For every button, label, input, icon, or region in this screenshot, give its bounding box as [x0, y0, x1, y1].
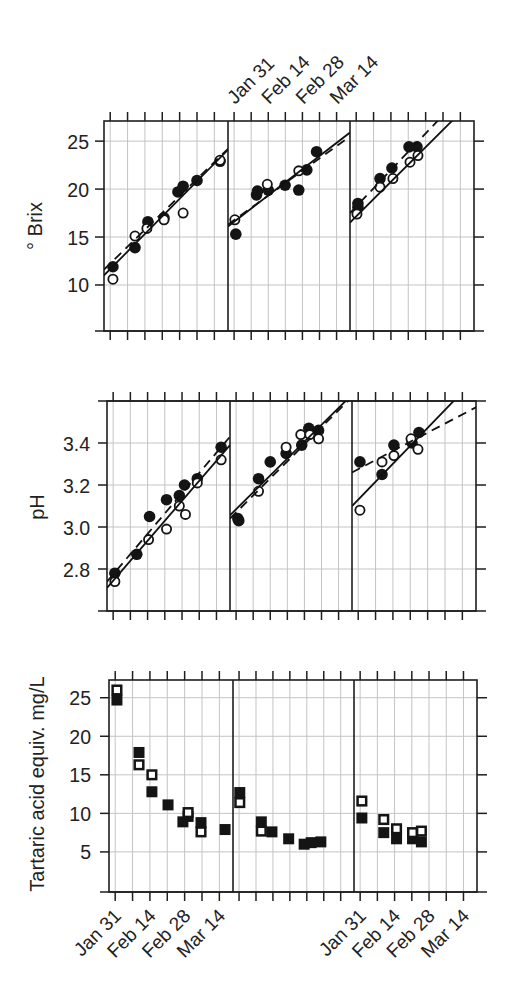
- data-point-open-square: [135, 761, 144, 770]
- figure: 10152025° BrixJan 31Feb 14Feb 28Mar 142.…: [0, 0, 519, 999]
- fit-line-solid: [352, 378, 476, 506]
- data-point-filled-circle: [252, 185, 264, 197]
- y-tick-label: 3.4: [63, 433, 90, 455]
- fit-line-dashed: [107, 437, 230, 582]
- chart-canvas: 10152025° BrixJan 31Feb 14Feb 28Mar 142.…: [0, 0, 519, 999]
- data-point-open-circle: [263, 180, 272, 189]
- tartaric-panel-2: [234, 787, 326, 850]
- data-point-open-circle: [314, 434, 323, 443]
- data-point-filled-square: [356, 812, 367, 823]
- data-point-open-square: [417, 827, 426, 836]
- y-tick-label: 2.8: [63, 559, 90, 581]
- fit-line-dashed: [230, 397, 352, 519]
- data-point-open-square: [235, 798, 244, 807]
- data-point-filled-circle: [230, 228, 242, 240]
- data-point-filled-circle: [293, 184, 305, 196]
- brix-plot-row: 10152025° BrixJan 31Feb 14Feb 28Mar 14: [24, 51, 484, 340]
- data-point-filled-square: [391, 833, 402, 844]
- tartaric-panel-3: [356, 797, 427, 848]
- data-point-open-circle: [413, 445, 422, 454]
- fit-line-solid: [104, 150, 228, 276]
- data-point-filled-square: [134, 747, 145, 758]
- ph-panel-2: [230, 395, 352, 527]
- y-tick-label: 25: [69, 687, 91, 709]
- data-point-filled-square: [315, 836, 326, 847]
- data-point-open-circle: [352, 209, 361, 218]
- y-tick-label: 3.2: [63, 475, 90, 497]
- brix-panel-2: [228, 133, 350, 240]
- data-point-open-square: [408, 828, 417, 837]
- y-axis-title: ° Brix: [24, 202, 46, 250]
- data-point-filled-square: [266, 826, 277, 837]
- data-point-filled-square: [111, 695, 122, 706]
- data-point-open-circle: [108, 275, 117, 284]
- data-point-open-circle: [179, 208, 188, 217]
- data-point-open-square: [358, 797, 367, 806]
- data-point-filled-circle: [264, 456, 276, 468]
- data-point-filled-circle: [233, 515, 245, 527]
- data-point-open-square: [257, 827, 266, 836]
- data-point-filled-circle: [161, 494, 173, 506]
- data-point-filled-square: [220, 824, 231, 835]
- y-axis-title: pH: [26, 494, 48, 520]
- fit-line-dashed: [104, 149, 228, 270]
- y-tick-label: 5: [80, 841, 91, 863]
- plot-frame: [109, 680, 477, 892]
- y-tick-label: 25: [67, 131, 89, 153]
- data-point-filled-square: [234, 787, 245, 798]
- data-point-open-circle: [159, 215, 168, 224]
- brix-panel-3: [350, 83, 474, 223]
- data-point-filled-square: [306, 837, 317, 848]
- y-tick-label: 3.0: [63, 517, 90, 539]
- y-axis-title: Tartaric acid equiv. mg/L: [26, 676, 48, 891]
- data-point-open-circle: [388, 174, 397, 183]
- data-point-filled-square: [146, 786, 157, 797]
- ph-panel-3: [352, 378, 476, 515]
- y-tick-label: 20: [67, 179, 89, 201]
- fit-line-dashed: [228, 136, 350, 224]
- data-point-filled-square: [163, 799, 174, 810]
- data-point-open-circle: [282, 443, 291, 452]
- data-point-open-circle: [296, 430, 305, 439]
- fit-line-solid: [230, 395, 352, 516]
- data-point-open-square: [392, 824, 401, 833]
- data-point-open-circle: [355, 506, 364, 515]
- data-point-open-square: [379, 815, 388, 824]
- y-tick-label: 15: [67, 227, 89, 249]
- ph-panel-1: [107, 437, 230, 588]
- fit-line-solid: [350, 99, 474, 223]
- y-tick-label: 10: [69, 803, 91, 825]
- ph-plot-row: 2.83.03.23.4pH: [26, 378, 486, 620]
- data-point-filled-square: [378, 827, 389, 838]
- brix-panel-1: [104, 149, 228, 284]
- data-point-filled-circle: [354, 456, 366, 468]
- data-point-open-square: [148, 771, 157, 780]
- data-point-filled-square: [283, 833, 294, 844]
- data-point-open-circle: [162, 525, 171, 534]
- fit-line-solid: [107, 445, 230, 588]
- tartaric-plot-row: 510152025Tartaric acid equiv. mg/LJan 31…: [26, 671, 487, 962]
- y-tick-label: 15: [69, 764, 91, 786]
- y-tick-label: 10: [67, 274, 89, 296]
- y-tick-label: 20: [69, 726, 91, 748]
- data-point-open-square: [197, 828, 206, 837]
- data-point-open-circle: [181, 510, 190, 519]
- data-point-open-square: [184, 808, 193, 817]
- data-point-filled-circle: [144, 511, 156, 523]
- data-point-open-square: [113, 686, 122, 695]
